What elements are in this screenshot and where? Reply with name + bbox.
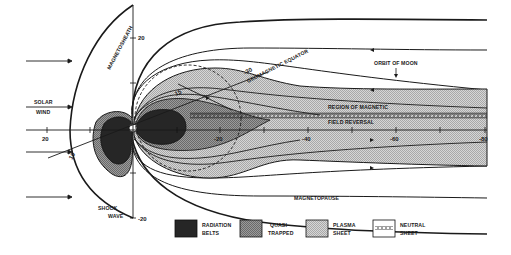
x-axis-tick-minus40: -40 (302, 136, 311, 142)
y-axis-bottom-label: -20 (138, 216, 147, 222)
magnetopause-label: MAGNETOPAUSE (294, 195, 340, 201)
shock-wave-label-1: SHOCK (98, 205, 117, 211)
svg-text:PLASMA: PLASMA (333, 222, 356, 228)
legend-item-neutral-sheet: NEUTRAL SHEET (373, 220, 426, 237)
svg-text:RADIATION: RADIATION (202, 222, 231, 228)
orbit-of-moon-label: ORBIT OF MOON (374, 60, 418, 66)
svg-text:TRAPPED: TRAPPED (268, 230, 294, 236)
magnetosphere-diagram: MAGNETOSHEATH SOLAR WIND SHOCK WAVE MAGN… (0, 0, 511, 255)
svg-text:SHEET: SHEET (400, 230, 419, 236)
neutral-sheet (190, 113, 487, 118)
x-axis-tick-minus60: -60 (390, 136, 399, 142)
legend-item-radiation-belts: RADIATION BELTS (175, 220, 231, 237)
svg-text:BELTS: BELTS (202, 230, 220, 236)
svg-text:NEUTRAL: NEUTRAL (400, 222, 426, 228)
shock-wave-label-2: WAVE (108, 213, 124, 219)
solar-wind-label-1: SOLAR (34, 99, 53, 105)
region-label-2: FIELD REVERSAL (328, 119, 375, 125)
legend: RADIATION BELTS QUASI- TRAPPED PLASMA SH… (175, 220, 426, 237)
solar-wind-label-2: WIND (36, 109, 50, 115)
svg-text:SHEET: SHEET (333, 230, 352, 236)
x-axis-tick-minus80: -80 (479, 136, 488, 142)
x-axis-sun-label: 20 (42, 136, 49, 142)
region-label-1: REGION OF MAGNETIC (328, 104, 388, 110)
y-axis-top-label: 20 (138, 35, 145, 41)
magnetosheath-label: MAGNETOSHEATH (106, 25, 134, 71)
x-axis-tick-minus20: -20 (214, 136, 223, 142)
geomagnetic-equator-label: GEOMAGNETIC EQUATOR (246, 48, 309, 84)
solar-wind-arrows (26, 59, 72, 199)
svg-text:QUASI-: QUASI- (270, 222, 289, 228)
